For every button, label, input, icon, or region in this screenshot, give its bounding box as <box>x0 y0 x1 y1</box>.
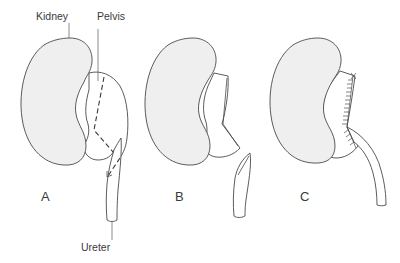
panel-b <box>145 38 251 218</box>
kidney-a <box>21 38 92 165</box>
label-ureter: Ureter <box>81 241 111 253</box>
panel-a <box>21 38 128 222</box>
pyeloplasty-diagram: Kidney Pelvis Ureter A B <box>0 0 400 263</box>
panel-letter-c: C <box>300 189 309 204</box>
label-kidney: Kidney <box>36 10 69 22</box>
label-pelvis-group: Pelvis <box>97 10 125 81</box>
ureter-b <box>233 153 250 218</box>
label-kidney-group: Kidney <box>36 10 69 38</box>
label-ureter-group: Ureter <box>81 222 112 253</box>
panel-letter-b: B <box>175 189 184 204</box>
panel-c <box>270 38 386 206</box>
ureter-c <box>347 127 386 206</box>
label-pelvis: Pelvis <box>97 10 125 22</box>
panel-letter-a: A <box>41 189 50 204</box>
